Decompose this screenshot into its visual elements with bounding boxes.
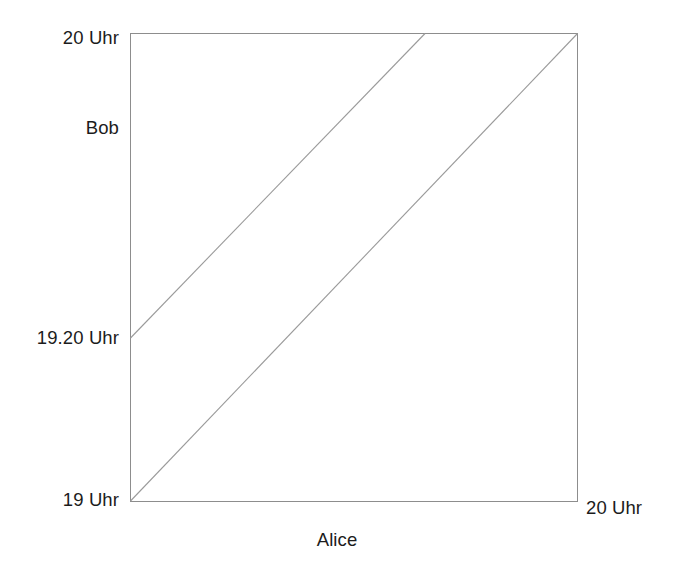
y-axis-tick-top: 20 Uhr bbox=[0, 29, 119, 48]
x-axis-tick-right: 20 Uhr bbox=[586, 499, 642, 518]
y-axis-title: Bob bbox=[0, 119, 119, 138]
plot-area-border bbox=[130, 33, 578, 502]
x-axis-title: Alice bbox=[0, 531, 674, 550]
chart-figure: 20 Uhr Bob 19.20 Uhr 19 Uhr 20 Uhr Alice bbox=[0, 0, 674, 569]
y-axis-tick-middle: 19.20 Uhr bbox=[0, 329, 119, 348]
y-axis-tick-bottom: 19 Uhr bbox=[0, 491, 119, 510]
